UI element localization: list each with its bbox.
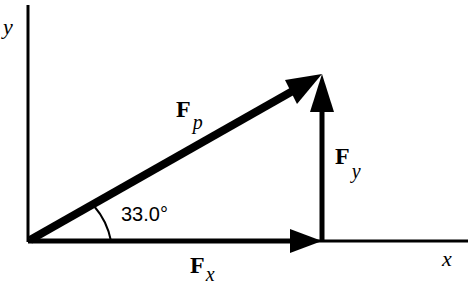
fp-main: F: [176, 96, 191, 122]
fp-label: Fp: [176, 96, 201, 123]
fy-main: F: [335, 143, 350, 169]
fx-arrowhead: [290, 229, 322, 253]
fy-label: Fy: [335, 143, 359, 170]
fp-subscript: p: [193, 111, 203, 133]
fx-subscript: x: [206, 263, 215, 285]
x-axis-label: x: [442, 246, 452, 272]
fy-subscript: y: [352, 160, 361, 182]
angle-arc: [94, 206, 111, 241]
fx-label: Fx: [190, 252, 214, 279]
fx-main: F: [190, 252, 205, 278]
vector-diagram: [0, 0, 473, 293]
angle-label: 33.0°: [121, 203, 168, 226]
y-axis-label: y: [3, 14, 13, 40]
